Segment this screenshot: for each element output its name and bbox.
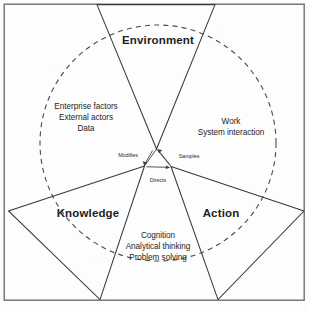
- cognition-block-line-1: Cognition: [141, 231, 175, 241]
- flow-arrow-samples: [157, 149, 170, 165]
- sector-body-environment-line-3: Data: [77, 124, 94, 134]
- flow-arrow-directs: [147, 166, 171, 170]
- sector-title-environment: Environment: [122, 33, 194, 47]
- sector-title-action: Action: [203, 206, 240, 220]
- diagram-canvas: Environment Enterprise factors External …: [0, 0, 309, 311]
- dashed-boundary-circle: [40, 25, 276, 261]
- cognition-block-line-3: Problem solving: [129, 253, 187, 263]
- sector-title-knowledge: Knowledge: [57, 206, 120, 220]
- flow-arrow-modifies: [143, 151, 153, 166]
- sector-knowledge[interactable]: [9, 166, 145, 300]
- flow-label-directs: Directs: [150, 177, 166, 184]
- flow-label-modifies: Modifies: [118, 152, 138, 159]
- flow-label-samples: Samples: [179, 153, 200, 160]
- sector-body-environment-line-1: Enterprise factors: [54, 102, 117, 112]
- sector-body-action-line-1: Work: [222, 117, 241, 127]
- sector-action[interactable]: [171, 167, 304, 300]
- sector-body-environment-line-2: External actors: [59, 113, 113, 123]
- cognition-block-line-2: Analytical thinking: [126, 242, 191, 252]
- sector-body-action-line-2: System interaction: [198, 128, 264, 138]
